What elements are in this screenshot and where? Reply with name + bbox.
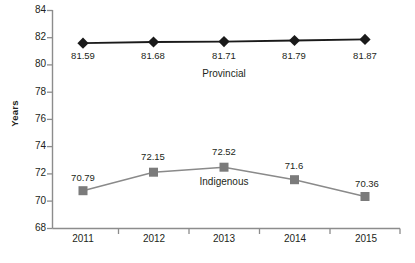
series-label-provincial: Provincial — [179, 68, 269, 79]
value-label-provincial-2014: 81.79 — [270, 51, 318, 61]
data-point-provincial-2011 — [77, 38, 88, 49]
data-point-provincial-2013 — [218, 36, 229, 47]
data-point-indigenous-2015 — [361, 192, 370, 201]
data-point-indigenous-2014 — [290, 175, 299, 184]
value-label-provincial-2013: 81.71 — [200, 51, 248, 61]
data-point-provincial-2012 — [148, 36, 159, 47]
line-chart: Years 84 82 80 78 76 74 72 70 68 2011 20… — [0, 0, 415, 263]
value-label-indigenous-2012: 72.15 — [129, 152, 177, 162]
series-provincial — [77, 34, 370, 49]
plot-area — [0, 0, 415, 263]
value-label-provincial-2011: 81.59 — [59, 51, 107, 61]
value-label-indigenous-2014: 71.6 — [270, 161, 318, 171]
y-axis-ticks — [47, 11, 53, 229]
x-axis-ticks — [119, 229, 401, 235]
value-label-indigenous-2011: 70.79 — [59, 173, 107, 183]
data-point-indigenous-2011 — [79, 186, 88, 195]
series-label-indigenous: Indigenous — [179, 176, 269, 187]
data-point-provincial-2015 — [359, 34, 370, 45]
value-label-provincial-2012: 81.68 — [129, 51, 177, 61]
data-point-indigenous-2012 — [149, 168, 158, 177]
data-point-provincial-2014 — [289, 35, 300, 46]
value-label-indigenous-2013: 72.52 — [200, 147, 248, 157]
value-label-indigenous-2015: 70.36 — [343, 179, 391, 189]
value-label-provincial-2015: 81.87 — [341, 51, 389, 61]
data-point-indigenous-2013 — [220, 163, 229, 172]
